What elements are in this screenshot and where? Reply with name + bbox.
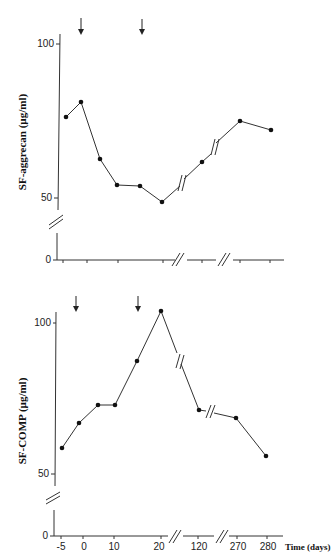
y-tick-50: 50 — [41, 192, 53, 203]
x-tick-120: 120 — [191, 541, 208, 552]
data-point — [96, 403, 101, 408]
y-tick-100: 100 — [37, 38, 54, 49]
x-tick-20: 20 — [153, 541, 165, 552]
y-axis-label-aggrecan: SF-aggrecan (µg/ml) — [16, 94, 29, 191]
data-point — [160, 200, 165, 205]
top-panel: 100 50 0 — [16, 18, 284, 266]
x-axis-label: Time (days) — [285, 542, 331, 552]
data-point — [264, 454, 269, 459]
data-point — [200, 160, 205, 165]
x-tick-270: 270 — [230, 541, 247, 552]
y-axis — [58, 34, 60, 210]
x-tick--5: -5 — [57, 541, 66, 552]
arrow-down-icon — [135, 296, 141, 312]
arrow-down-icon — [78, 18, 84, 35]
y-axis-break — [49, 215, 63, 229]
y-axis-label-comp: SF-COMP (µg/ml) — [16, 377, 29, 464]
x-axis — [57, 253, 284, 266]
data-point — [238, 119, 243, 124]
series-sf-aggrecan — [64, 100, 274, 205]
data-point — [135, 359, 140, 364]
data-point — [234, 416, 239, 421]
data-point — [197, 408, 202, 413]
data-point — [60, 446, 65, 451]
y-tick-0: 0 — [42, 530, 48, 541]
bottom-panel: 100 50 0 -5 0 10 20 120 270 280 Time (da… — [16, 296, 331, 552]
arrow-down-icon — [139, 19, 145, 35]
y-tick-0: 0 — [45, 254, 51, 265]
x-tick-0: 0 — [81, 541, 87, 552]
figure: 100 50 0 — [0, 0, 332, 560]
data-point — [138, 184, 143, 189]
arrow-down-icon — [73, 296, 79, 312]
x-tick-10: 10 — [108, 541, 120, 552]
data-point — [77, 421, 82, 426]
data-point — [64, 115, 69, 120]
x-tick-280: 280 — [260, 541, 277, 552]
data-point — [98, 157, 103, 162]
data-point — [115, 183, 120, 188]
y-tick-100: 100 — [34, 317, 51, 328]
y-tick-50: 50 — [38, 468, 50, 479]
y-axis-break — [46, 492, 60, 504]
series-sf-comp — [60, 309, 269, 459]
data-point — [159, 309, 164, 314]
y-axis — [55, 312, 56, 486]
data-point — [113, 403, 118, 408]
data-point — [269, 128, 274, 133]
x-axis — [54, 530, 283, 543]
data-point — [79, 100, 84, 105]
